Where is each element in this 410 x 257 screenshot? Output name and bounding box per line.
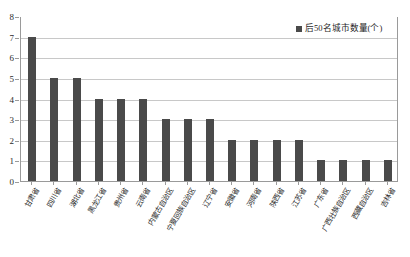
x-axis-tick-label: 江苏省 <box>290 187 307 209</box>
x-axis-tick-mark <box>320 182 321 185</box>
x-axis-tick-mark <box>365 182 366 185</box>
x-axis-tick-label: 陕西省 <box>268 187 285 209</box>
bar <box>206 119 214 181</box>
y-axis-tick-label: 0 <box>10 178 15 187</box>
x-axis-tick-mark <box>187 182 188 185</box>
x-axis-tick-mark <box>98 182 99 185</box>
y-axis-tick-label: 3 <box>10 116 15 125</box>
y-axis-tick-label: 7 <box>10 33 15 42</box>
y-axis: 012345678 <box>0 17 18 182</box>
x-axis-tick-mark <box>387 182 388 185</box>
bar <box>73 78 81 181</box>
x-axis-tick-label: 甘肃省 <box>24 187 41 209</box>
y-axis-tick-label: 5 <box>10 74 15 83</box>
x-axis-tick-mark <box>76 182 77 185</box>
y-axis-tick-label: 2 <box>10 136 15 145</box>
y-axis-tick-mark <box>15 58 19 59</box>
y-axis-tick-mark <box>15 17 19 18</box>
x-axis-tick-mark <box>253 182 254 185</box>
x-axis-tick-label: 辽宁省 <box>202 187 219 209</box>
y-axis-tick-mark <box>15 182 19 183</box>
y-axis-tick-label: 4 <box>10 95 15 104</box>
bar <box>384 160 392 181</box>
bars-layer <box>21 17 397 181</box>
plot-area <box>20 17 398 182</box>
y-axis-tick-mark <box>15 79 19 80</box>
x-axis-tick-mark <box>31 182 32 185</box>
x-axis-tick-label: 西藏自治区 <box>350 187 374 221</box>
bar <box>162 119 170 181</box>
x-axis-tick-label: 广东省 <box>313 187 330 209</box>
x-axis-tick-label: 安徽省 <box>224 187 241 209</box>
bar <box>28 37 36 181</box>
legend-label: 后50名城市数量(个) <box>305 24 382 33</box>
bar <box>273 140 281 181</box>
x-axis-tick-mark <box>276 182 277 185</box>
bar-chart: 012345678 甘肃省四川省湖北省黑龙江省贵州省云南省内蒙古自治区宁夏回族自… <box>0 0 410 257</box>
y-axis-tick-mark <box>15 161 19 162</box>
y-axis-tick-label: 6 <box>10 54 15 63</box>
bar <box>295 140 303 181</box>
y-axis-tick-mark <box>15 38 19 39</box>
x-axis-tick-mark <box>120 182 121 185</box>
x-axis-tick-mark <box>209 182 210 185</box>
x-axis-tick-mark <box>231 182 232 185</box>
x-axis-tick-label: 湖北省 <box>68 187 85 209</box>
bar <box>339 160 347 181</box>
x-axis-tick-label: 贵州省 <box>113 187 130 209</box>
y-axis-tick-label: 8 <box>10 13 15 22</box>
x-axis-tick-label: 云南省 <box>135 187 152 209</box>
x-axis-tick-label: 黑龙江省 <box>87 187 108 215</box>
legend-swatch-icon <box>296 26 302 32</box>
x-axis-tick-mark <box>165 182 166 185</box>
bar <box>50 78 58 181</box>
x-axis-tick-label: 河南省 <box>246 187 263 209</box>
y-axis-tick-mark <box>15 100 19 101</box>
x-axis-tick-mark <box>53 182 54 185</box>
bar <box>184 119 192 181</box>
x-axis-tick-mark <box>342 182 343 185</box>
bar <box>250 140 258 181</box>
x-axis-tick-label: 四川省 <box>46 187 63 209</box>
y-axis-tick-label: 1 <box>10 157 15 166</box>
x-axis-tick-mark <box>298 182 299 185</box>
x-axis-tick-mark <box>142 182 143 185</box>
legend: 后50名城市数量(个) <box>294 23 384 34</box>
y-axis-tick-mark <box>15 120 19 121</box>
bar <box>139 99 147 182</box>
bar <box>362 160 370 181</box>
bar <box>228 140 236 181</box>
bar <box>317 160 325 181</box>
x-axis-tick-label: 吉林省 <box>379 187 396 209</box>
bar <box>117 99 125 182</box>
bar <box>95 99 103 182</box>
y-axis-tick-mark <box>15 141 19 142</box>
